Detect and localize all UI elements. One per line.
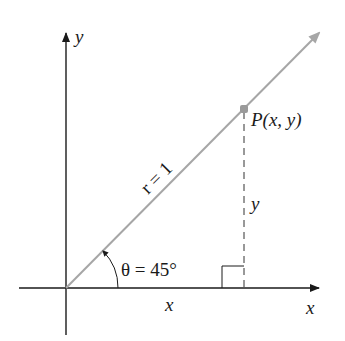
horizontal-segment-label: x <box>164 294 174 315</box>
point-p-marker <box>240 105 248 113</box>
y-axis-label: y <box>73 26 84 47</box>
right-angle-marker <box>222 266 244 288</box>
terminal-ray <box>66 33 319 288</box>
point-p-label: P(x, y) <box>250 109 302 131</box>
diagram-canvas: y x P(x, y) r = 1 θ = 45° x y <box>0 0 345 341</box>
ray-length-label: r = 1 <box>136 157 176 197</box>
angle-arc <box>103 251 118 288</box>
vertical-segment-label: y <box>249 193 260 214</box>
x-axis-label: x <box>305 297 315 318</box>
angle-label: θ = 45° <box>121 259 177 280</box>
